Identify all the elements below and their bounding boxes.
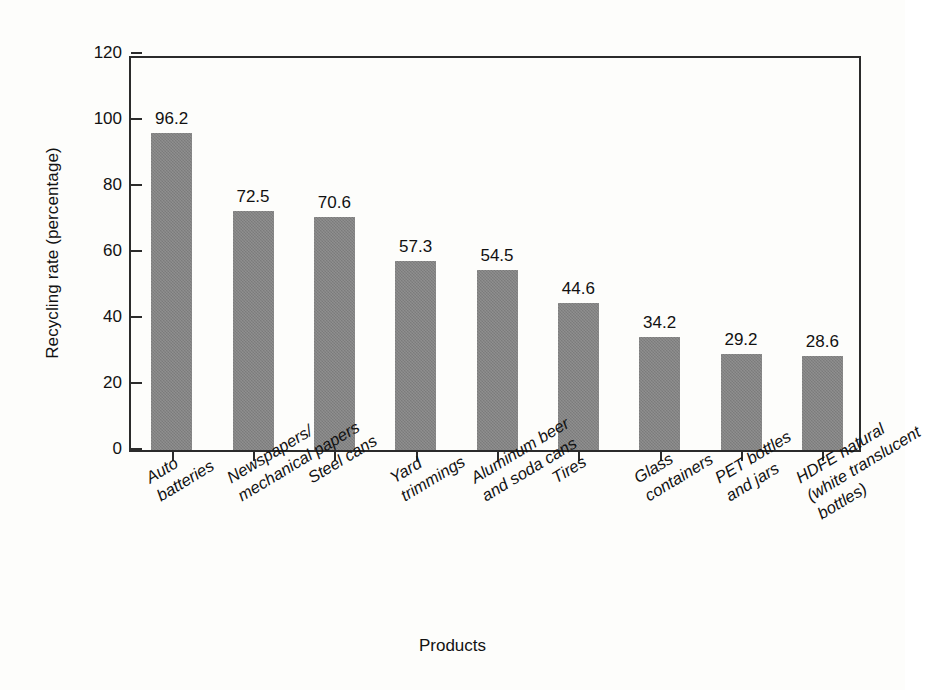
bar-value-label: 29.2	[724, 330, 757, 350]
y-axis-tick: 60	[131, 250, 142, 252]
x-axis-title: Products	[0, 636, 905, 656]
bar-value-label: 54.5	[480, 246, 513, 266]
y-axis-tick: 40	[131, 316, 142, 318]
y-axis-tick-label: 100	[94, 109, 122, 129]
y-axis-tick-label: 80	[103, 175, 122, 195]
bar: 72.5	[233, 211, 274, 450]
bar-value-label: 44.6	[562, 279, 595, 299]
bar: 57.3	[395, 261, 436, 450]
y-axis-tick-label: 60	[103, 241, 122, 261]
y-axis-tick: 0	[131, 448, 142, 450]
bar: 96.2	[151, 133, 192, 450]
bar: 29.2	[721, 354, 762, 450]
y-axis-tick: 80	[131, 184, 142, 186]
y-axis-tick-label: 20	[103, 373, 122, 393]
y-axis-tick-label: 120	[94, 43, 122, 63]
y-axis-tick: 100	[131, 118, 142, 120]
bar-value-label: 57.3	[399, 237, 432, 257]
bar-value-label: 72.5	[236, 187, 269, 207]
bar-value-label: 28.6	[806, 332, 839, 352]
bar-value-label: 70.6	[318, 193, 351, 213]
y-axis-tick-label: 0	[113, 439, 122, 459]
bar: 28.6	[802, 356, 843, 450]
plot-area: 02040608010012096.272.570.657.354.544.63…	[129, 56, 861, 452]
y-axis-tick: 20	[131, 382, 142, 384]
y-axis-tick-label: 40	[103, 307, 122, 327]
y-axis-tick: 120	[131, 52, 142, 54]
bar-value-label: 96.2	[155, 109, 188, 129]
bar: 54.5	[477, 270, 518, 450]
bar: 34.2	[639, 337, 680, 450]
bar-value-label: 34.2	[643, 313, 676, 333]
y-axis-title: Recycling rate (percentage)	[43, 83, 63, 423]
